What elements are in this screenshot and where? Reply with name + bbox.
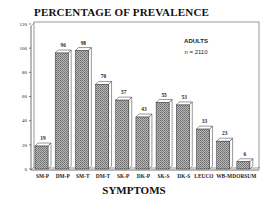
bar-wb-m: 23 xyxy=(217,130,233,169)
x-axis: SM-PDM-PSM-TDM-TSK-PDK-PSK-SDK-SLEUCOWB-… xyxy=(36,173,256,179)
y-tick-label: 60 xyxy=(22,94,28,99)
bar-leuco: 33 xyxy=(196,118,212,169)
y-tick-label: 0 xyxy=(25,167,28,172)
bar-sk-p: 57 xyxy=(116,89,132,169)
x-tick-label: WB-M xyxy=(216,173,232,179)
bar-dm-p: 96 xyxy=(55,42,71,169)
x-tick-label: DM-P xyxy=(56,173,71,179)
bar-value-label: 19 xyxy=(40,135,46,141)
bar-sm-t: 98 xyxy=(75,40,91,169)
x-tick-label: DM-T xyxy=(96,173,111,179)
x-tick-label: SK-P xyxy=(117,173,130,179)
x-tick-label: DK-S xyxy=(177,173,190,179)
annotation-box: ADULTSn = 2110 xyxy=(184,38,208,55)
annotation-n: n = 2110 xyxy=(184,49,208,55)
bar-sm-p: 19 xyxy=(35,135,51,169)
bar-value-label: 98 xyxy=(81,40,87,46)
y-tick-label: 20 xyxy=(22,143,28,148)
x-tick-label: SK-S xyxy=(158,173,170,179)
y-tick-label: 40 xyxy=(22,118,28,123)
bar-value-label: 33 xyxy=(202,118,208,124)
bar-dk-s: 53 xyxy=(176,94,192,169)
bar-value-label: 6 xyxy=(243,151,246,157)
bar-value-label: 43 xyxy=(141,106,147,112)
bar-dorsum: 6 xyxy=(237,151,253,169)
x-tick-label: SM-P xyxy=(36,173,50,179)
y-tick-label: 120 xyxy=(20,22,28,27)
x-tick-label: DORSUM xyxy=(232,173,256,179)
bar-value-label: 23 xyxy=(222,130,228,136)
bars: 199698705743555333236 xyxy=(35,40,253,169)
bar-value-label: 57 xyxy=(121,89,127,95)
bar-value-label: 96 xyxy=(60,42,66,48)
bar-chart: 020406080100120 199698705743555333236 SM… xyxy=(0,0,268,201)
y-axis: 020406080100120 xyxy=(20,22,35,172)
bar-value-label: 70 xyxy=(101,73,107,79)
y-tick-label: 80 xyxy=(22,70,28,75)
annotation-group: ADULTS xyxy=(184,38,208,44)
bar-value-label: 53 xyxy=(182,94,188,100)
x-tick-label: SM-T xyxy=(76,173,90,179)
bar-dm-t: 70 xyxy=(96,73,112,169)
x-tick-label: LEUCO xyxy=(194,173,213,179)
y-tick-label: 100 xyxy=(20,46,28,51)
bar-sk-s: 55 xyxy=(156,92,172,169)
bar-dk-p: 43 xyxy=(136,106,152,169)
x-tick-label: DK-P xyxy=(137,173,151,179)
bar-value-label: 55 xyxy=(161,92,167,98)
